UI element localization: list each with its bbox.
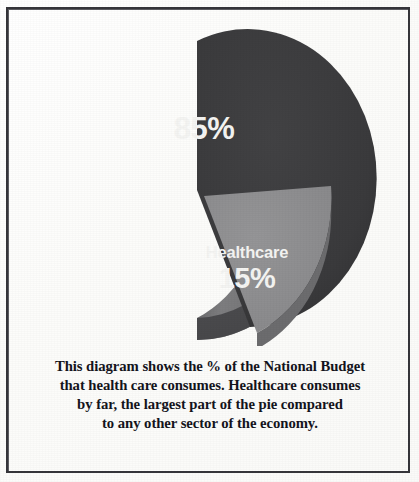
pie-label-healthcare-percent: 15% — [182, 264, 312, 294]
pie-chart-graphic — [14, 16, 404, 346]
pie-chart-svg — [14, 16, 404, 346]
pie-label-major-percent: 85% — [144, 113, 264, 145]
caption-line-3: by far, the largest part of the pie comp… — [18, 395, 402, 414]
caption-line-2: that health care consumes. Healthcare co… — [18, 376, 402, 395]
caption-line-1: This diagram shows the % of the National… — [18, 357, 402, 376]
pie-label-healthcare-name: Healthcare — [182, 244, 312, 261]
page-root: 85% Healthcare 15% This diagram shows th… — [0, 0, 419, 482]
caption-line-4: to any other sector of the economy. — [18, 414, 402, 433]
chart-caption: This diagram shows the % of the National… — [18, 357, 402, 433]
pie-chart-figure: 85% Healthcare 15% — [14, 16, 404, 346]
